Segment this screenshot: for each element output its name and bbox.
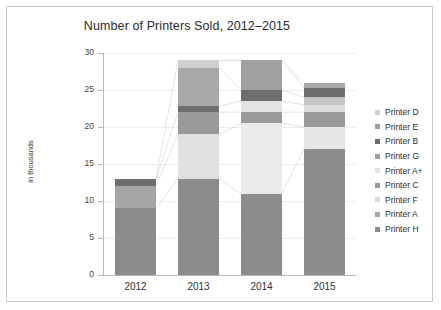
- legend-swatch-icon: [375, 154, 380, 159]
- legend-item[interactable]: Printer D: [375, 105, 423, 120]
- legend-item[interactable]: Printer G: [375, 149, 423, 164]
- legend-item-label: Printer B: [385, 136, 418, 146]
- legend-item[interactable]: Printer H: [375, 222, 423, 237]
- legend-item[interactable]: Printer A+: [375, 163, 423, 178]
- bar-segment[interactable]: [304, 97, 345, 104]
- y-axis-tick-label: 30: [68, 47, 94, 57]
- bar-segment[interactable]: [115, 186, 156, 208]
- bar-segment[interactable]: [304, 149, 345, 275]
- bar-segment[interactable]: [178, 106, 219, 112]
- y-axis-title: in thousands: [26, 117, 35, 207]
- bar-segment[interactable]: [115, 208, 156, 275]
- legend: Printer DPrinter EPrinter BPrinter GPrin…: [375, 105, 423, 236]
- legend-item[interactable]: Printer A: [375, 207, 423, 222]
- legend-item-label: Printer E: [385, 122, 418, 132]
- bar-segment[interactable]: [178, 179, 219, 275]
- legend-swatch-icon: [375, 212, 380, 217]
- bar-segment[interactable]: [178, 112, 219, 134]
- y-axis-tick: [98, 164, 103, 165]
- x-axis-label: 2015: [297, 281, 353, 292]
- legend-item-label: Printer F: [385, 195, 418, 205]
- legend-swatch-icon: [375, 183, 380, 188]
- bar-segment[interactable]: [178, 68, 219, 106]
- x-axis-line: [103, 275, 356, 276]
- stacked-bar[interactable]: [241, 53, 282, 275]
- x-axis-label: 2014: [234, 281, 290, 292]
- legend-item-label: Printer A+: [385, 166, 423, 176]
- legend-swatch-icon: [375, 110, 380, 115]
- y-axis-tick: [98, 90, 103, 91]
- stacked-bar[interactable]: [115, 53, 156, 275]
- bar-segment[interactable]: [241, 123, 282, 193]
- bar-segment[interactable]: [178, 60, 219, 67]
- y-axis-tick-label: 15: [68, 158, 94, 168]
- bar-segment[interactable]: [304, 83, 345, 88]
- legend-swatch-icon: [375, 227, 380, 232]
- chart-frame: Number of Printers Sold, 2012–2015 in th…: [6, 6, 433, 302]
- legend-item[interactable]: Printer B: [375, 134, 423, 149]
- legend-swatch-icon: [375, 197, 380, 202]
- bar-segment[interactable]: [241, 101, 282, 112]
- x-axis-label: 2012: [108, 281, 164, 292]
- y-axis-tick-label: 20: [68, 121, 94, 131]
- bar-segment[interactable]: [241, 194, 282, 275]
- bar-segment[interactable]: [304, 112, 345, 127]
- y-axis-tick: [98, 127, 103, 128]
- y-axis-tick-label: 5: [68, 232, 94, 242]
- legend-swatch-icon: [375, 124, 380, 129]
- bar-segment[interactable]: [304, 127, 345, 149]
- stacked-bar[interactable]: [178, 53, 219, 275]
- legend-item-label: Printer C: [385, 180, 419, 190]
- y-axis-tick: [98, 275, 103, 276]
- legend-item-label: Printer G: [385, 151, 419, 161]
- y-axis-tick-label: 10: [68, 195, 94, 205]
- bar-segment[interactable]: [241, 112, 282, 123]
- chart-title: Number of Printers Sold, 2012–2015: [7, 19, 367, 33]
- legend-item[interactable]: Printer C: [375, 178, 423, 193]
- bar-segment[interactable]: [241, 90, 282, 101]
- legend-item-label: Printer D: [385, 107, 419, 117]
- legend-item[interactable]: Printer F: [375, 193, 423, 208]
- y-axis-tick-label: 25: [68, 84, 94, 94]
- stacked-bar[interactable]: [304, 53, 345, 275]
- y-axis-tick: [98, 53, 103, 54]
- legend-item-label: Printer A: [385, 209, 418, 219]
- y-axis-tick-label: 0: [68, 269, 94, 279]
- legend-swatch-icon: [375, 168, 380, 173]
- legend-item[interactable]: Printer E: [375, 120, 423, 135]
- x-axis-label: 2013: [171, 281, 227, 292]
- legend-swatch-icon: [375, 139, 380, 144]
- bar-segment[interactable]: [115, 179, 156, 186]
- bar-segment[interactable]: [304, 105, 345, 112]
- y-axis-tick: [98, 238, 103, 239]
- y-axis-tick: [98, 201, 103, 202]
- legend-item-label: Printer H: [385, 224, 419, 234]
- bar-segment[interactable]: [178, 134, 219, 178]
- bar-segment[interactable]: [304, 88, 345, 98]
- bar-segment[interactable]: [241, 60, 282, 90]
